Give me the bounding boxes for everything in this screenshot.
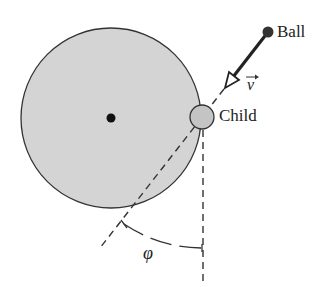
angle-arc [124,224,202,248]
ball-label: Ball [277,22,305,42]
angle-tick-left [121,220,127,228]
child-circle [190,105,214,129]
center-pivot-dot [107,114,116,123]
ball-dot [263,27,274,38]
child-label: Child [219,106,257,126]
vector-overline-head [255,75,259,80]
diagram-canvas [0,0,332,287]
angle-label: φ [143,243,153,264]
velocity-arrow-shaft [233,32,268,77]
velocity-label: v [247,76,254,94]
